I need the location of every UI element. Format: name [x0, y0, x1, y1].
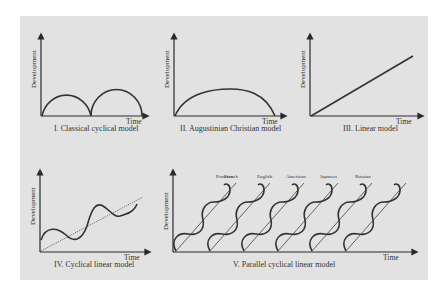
- trend-line: [176, 183, 236, 251]
- nation-label: Japanese: [320, 174, 339, 179]
- wave-english: English: [242, 174, 304, 251]
- single-arch: [175, 89, 275, 116]
- wave-prussian: Prussian: [174, 174, 236, 251]
- wave-japanese: Japanese: [310, 174, 372, 251]
- linear-line: [311, 56, 413, 116]
- trend-line: [312, 183, 372, 251]
- y-axis-label: Development: [162, 192, 170, 230]
- panel-cyclical-linear: Development Time IV. Cyclical linear mod…: [29, 172, 148, 269]
- trend-line: [244, 183, 304, 251]
- wave-curve: [242, 184, 298, 251]
- y-axis-label: Development: [163, 50, 171, 88]
- panel-parallel-cyclical-linear: Development Time V. Parallel cyclical li…: [162, 172, 415, 269]
- x-axis-label: Time: [383, 253, 399, 262]
- trend-line: [346, 183, 406, 251]
- trend-line: [278, 183, 338, 251]
- wave-curve: [310, 184, 366, 251]
- models-of-development-diagram: Development Time I. Classical cyclical m…: [0, 0, 446, 293]
- y-axis-label: Development: [30, 50, 38, 88]
- wave-curve: [208, 184, 264, 251]
- panel-classical-cyclical: Development Time I. Classical cyclical m…: [30, 36, 146, 133]
- y-axis-label: Development: [29, 187, 37, 225]
- wave-russian: Russian: [344, 174, 406, 251]
- nation-label: American: [286, 174, 306, 179]
- cyclical-wave: [41, 204, 137, 240]
- trend-line: [41, 197, 143, 251]
- panel-caption: IV. Cyclical linear model: [54, 260, 135, 269]
- trend-line: [210, 183, 270, 251]
- panel-caption: V. Parallel cyclical linear model: [233, 260, 336, 269]
- cyclical-arches: [42, 89, 142, 116]
- panel-caption: I. Classical cyclical model: [54, 124, 139, 133]
- nation-label: Russian: [355, 174, 371, 179]
- wave-french: French: [208, 174, 270, 251]
- panel-linear: Development Time III. Linear model: [299, 36, 421, 133]
- panel-augustinian-christian: Development Time II. Augustinian Christi…: [163, 36, 284, 133]
- panel-caption: II. Augustinian Christian model: [180, 124, 282, 133]
- wave-curve: [276, 184, 332, 251]
- nation-label: French: [224, 174, 238, 179]
- x-axis-label: Time: [396, 117, 412, 126]
- wave-curve: [174, 184, 230, 251]
- nation-label: English: [257, 174, 273, 179]
- panel-caption: III. Linear model: [343, 124, 399, 133]
- y-axis-label: Development: [299, 50, 307, 88]
- wave-curve: [344, 184, 400, 251]
- wave-american: American: [276, 174, 338, 251]
